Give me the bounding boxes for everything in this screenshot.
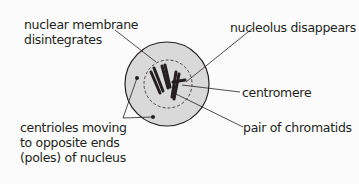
- label-nuclear-membrane: nuclear membrane disintegrates: [24, 17, 138, 47]
- label-centrioles: centrioles moving to opposite ends (pole…: [20, 120, 127, 165]
- label-nucleolus: nucleolus disappears: [230, 20, 356, 35]
- label-centromere: centromere: [242, 85, 311, 100]
- label-chromatids: pair of chromatids: [243, 120, 352, 135]
